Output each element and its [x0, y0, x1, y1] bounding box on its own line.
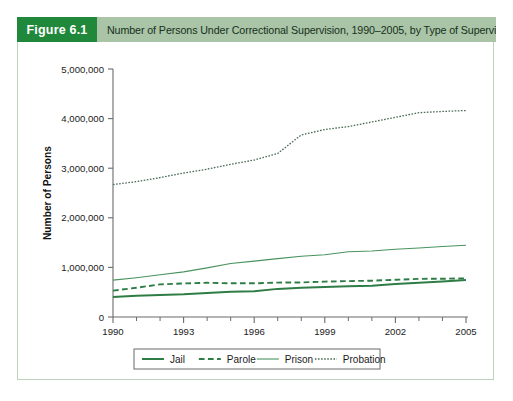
figure-title: Number of Persons Under Correctional Sup…: [97, 17, 496, 42]
figure-number-badge: Figure 6.1: [17, 17, 97, 42]
figure-container: Figure 6.1 Number of Persons Under Corre…: [0, 0, 513, 401]
figure-header: Figure 6.1 Number of Persons Under Corre…: [17, 17, 496, 42]
figure-body-frame: [17, 42, 494, 380]
